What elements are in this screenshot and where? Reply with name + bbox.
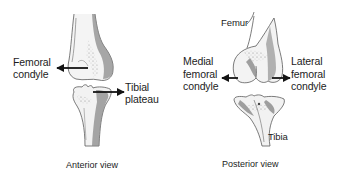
label-line: Tibial: [125, 81, 159, 93]
label-line: condyle: [291, 80, 327, 93]
label-line: femoral: [291, 68, 327, 81]
label-line: femoral: [183, 68, 219, 81]
label-line: plateau: [125, 93, 159, 105]
label-line: Femoral: [13, 56, 51, 68]
posterior-view-caption: Posterior view: [222, 159, 279, 170]
anterior-view-caption: Anterior view: [66, 160, 118, 171]
anterior-femur-illustration: [68, 14, 113, 81]
tibia-label: Tibia: [268, 131, 288, 143]
label-line: condyle: [183, 80, 219, 93]
lateral-femoral-condyle-label: Lateral femoral condyle: [291, 55, 327, 93]
medial-femoral-condyle-label: Medial femoral condyle: [183, 55, 219, 93]
label-line: Medial: [183, 55, 219, 68]
femoral-condyle-label: Femoral condyle: [13, 56, 51, 80]
tibial-plateau-label: Tibial plateau: [125, 81, 159, 105]
label-line: Lateral: [291, 55, 327, 68]
knee-anatomy-diagram: Femoral condyle Tibial plateau Anterior …: [0, 0, 345, 181]
anterior-tibia-illustration: [73, 85, 111, 146]
label-line: condyle: [13, 68, 51, 80]
femur-label: Femur: [221, 17, 248, 29]
